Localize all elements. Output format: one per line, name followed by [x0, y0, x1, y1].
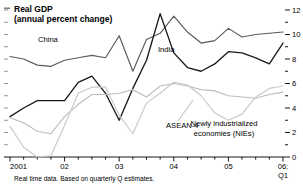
leader-line-asean	[178, 100, 193, 121]
x-axis-tick-sublabel: Q1	[278, 171, 288, 180]
x-axis-tick-label: 04	[170, 162, 178, 171]
series-label-china: China	[38, 35, 59, 44]
y-axis-tick-label: 6	[292, 79, 296, 88]
y-axis-tick-label: 8	[292, 55, 296, 64]
x-axis-tick-label: 02	[60, 162, 68, 171]
y-axis-tick-label: 12	[292, 6, 300, 15]
x-axis-tick-label: 03	[115, 162, 123, 171]
chart-subtitle: (annual percent change)	[14, 14, 112, 24]
y-axis-tick-label: 10	[292, 30, 300, 39]
chart-figure: 20010203040506:Q1024681012Real GDP(annua…	[0, 0, 303, 184]
x-axis-tick-label: 05	[224, 162, 232, 171]
y-axis-tick-label: 4	[292, 104, 296, 113]
chart-title: Real GDP	[14, 4, 53, 14]
real-gdp-line-chart: 20010203040506:Q1024681012Real GDP(annua…	[0, 0, 303, 184]
series-label-nies-line1: Newly industrialized	[190, 119, 257, 128]
series-label-india: India	[158, 45, 175, 54]
x-axis-tick-label: 2001	[10, 162, 27, 171]
series-label-nies-line2: economies (NIEs)	[194, 129, 255, 138]
title-bullet-icon	[4, 8, 10, 10]
y-axis-tick-label: 0	[292, 153, 296, 162]
chart-caption: Real time data. Based on quarterly Q est…	[14, 175, 155, 183]
y-axis-tick-label: 2	[292, 128, 296, 137]
x-axis-tick-label: 06:	[278, 162, 289, 171]
